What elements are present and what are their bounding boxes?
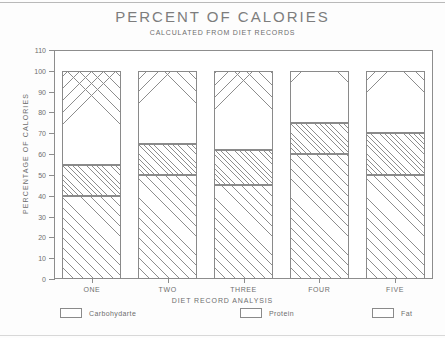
- legend-swatch-icon: [372, 308, 394, 318]
- legend-item[interactable]: Fat: [372, 308, 412, 318]
- y-axis-title: PERCENTAGE OF CALORIES: [22, 84, 29, 224]
- y-axis-tick: [49, 196, 55, 197]
- stacked-bar[interactable]: [366, 50, 425, 279]
- legend-label: Fat: [401, 310, 412, 317]
- y-axis-tick-label: 60: [38, 151, 46, 158]
- y-axis-tick-label: 80: [38, 109, 46, 116]
- bar-segment[interactable]: [290, 123, 349, 154]
- page-top-rule: [0, 2, 445, 3]
- y-axis-tick: [49, 237, 55, 238]
- y-axis-tick-label: 10: [38, 255, 46, 262]
- stacked-bar[interactable]: [138, 50, 197, 279]
- y-axis-tick-label: 110: [35, 47, 46, 54]
- x-axis-tick-label: FIVE: [386, 286, 404, 293]
- chart-legend: CarbohydarteProteinFat: [54, 308, 433, 324]
- y-axis-tick: [49, 92, 55, 93]
- stacked-bar[interactable]: [62, 50, 121, 279]
- stacked-bar[interactable]: [214, 50, 273, 279]
- bar-segment[interactable]: [214, 71, 273, 150]
- y-axis-tick: [49, 71, 55, 72]
- y-axis-tick: [49, 154, 55, 155]
- legend-swatch-icon: [60, 308, 82, 318]
- y-axis-tick-label: 100: [34, 67, 46, 74]
- bar-segment[interactable]: [62, 196, 121, 279]
- page-bottom-rule: [0, 335, 445, 336]
- legend-item[interactable]: Protein: [240, 308, 294, 318]
- plot-area: 0102030405060708090100110 ONETWOTHREEFOU…: [54, 50, 433, 279]
- bar-segment[interactable]: [138, 71, 197, 144]
- bar-segment[interactable]: [366, 175, 425, 279]
- bar-segment[interactable]: [290, 71, 349, 123]
- x-axis-tick-label: FOUR: [308, 286, 330, 293]
- chart-subtitle: CALCULATED FROM DIET RECORDS: [0, 29, 445, 36]
- x-axis-tick-label: TWO: [159, 286, 177, 293]
- y-axis-tick: [49, 279, 55, 280]
- bar-segment[interactable]: [214, 185, 273, 279]
- bar-segment[interactable]: [138, 175, 197, 279]
- bar-segment[interactable]: [214, 150, 273, 185]
- bar-segment[interactable]: [138, 144, 197, 175]
- y-axis-tick: [49, 50, 55, 51]
- legend-item[interactable]: Carbohydarte: [60, 308, 136, 318]
- y-axis-tick: [49, 175, 55, 176]
- bar-segment[interactable]: [62, 165, 121, 196]
- stacked-bar[interactable]: [290, 50, 349, 279]
- y-axis-tick-label: 90: [38, 88, 46, 95]
- y-axis-tick-label: 50: [38, 171, 46, 178]
- y-axis-tick-label: 0: [42, 276, 46, 283]
- legend-label: Protein: [269, 310, 294, 317]
- y-axis-tick: [49, 258, 55, 259]
- y-axis-tick: [49, 133, 55, 134]
- y-axis-tick: [49, 217, 55, 218]
- x-axis-tick-label: THREE: [230, 286, 257, 293]
- y-axis-tick-label: 30: [38, 213, 46, 220]
- bar-segment[interactable]: [290, 154, 349, 279]
- y-axis-tick-label: 70: [38, 130, 46, 137]
- bar-segment[interactable]: [366, 71, 425, 133]
- x-axis-tick-label: ONE: [83, 286, 100, 293]
- legend-label: Carbohydarte: [89, 310, 136, 317]
- bar-segment[interactable]: [62, 71, 121, 165]
- x-axis-title: DIET RECORD ANALYSIS: [0, 297, 445, 304]
- y-axis-tick: [49, 112, 55, 113]
- y-axis-tick-label: 40: [38, 192, 46, 199]
- chart-page: PERCENT OF CALORIES CALCULATED FROM DIET…: [0, 0, 445, 338]
- bar-segment[interactable]: [366, 133, 425, 175]
- chart-title: PERCENT OF CALORIES: [0, 8, 445, 25]
- y-axis-tick-label: 20: [38, 234, 46, 241]
- legend-swatch-icon: [240, 308, 262, 318]
